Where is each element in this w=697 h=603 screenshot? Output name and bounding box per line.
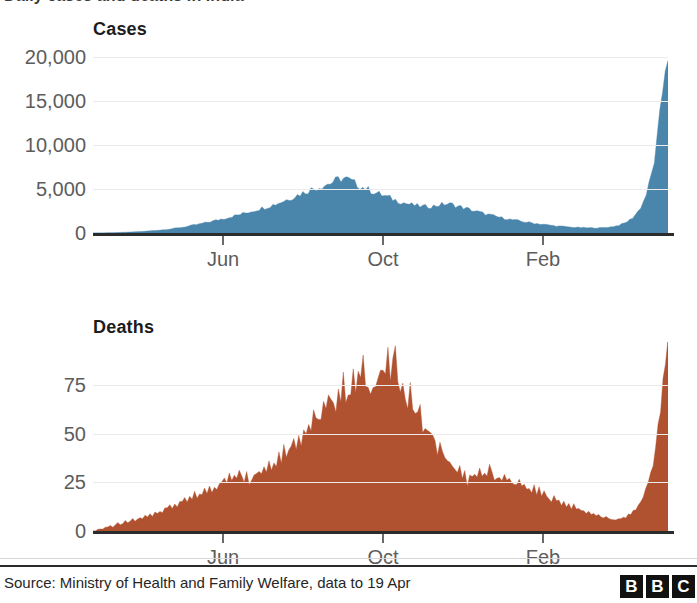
gridline — [93, 385, 668, 386]
x-tick-mark — [542, 534, 544, 543]
source-attribution: Source: Ministry of Health and Family We… — [4, 574, 411, 591]
gridline — [93, 482, 668, 483]
y-tick-label: 10,000 — [2, 134, 86, 157]
deaths-y-axis-labels: 0255075 — [0, 342, 86, 531]
x-tick-label: Oct — [367, 248, 398, 271]
y-tick-label: 25 — [2, 471, 86, 494]
headline-text: Daily cases and deaths in India — [0, 0, 697, 6]
x-tick-label: Jun — [207, 248, 239, 271]
x-tick-mark — [382, 534, 384, 543]
cases-y-axis-labels: 05,00010,00015,00020,000 — [0, 44, 86, 233]
chart-page: Daily cases and deaths in India Cases 05… — [0, 0, 697, 603]
x-tick-mark — [222, 236, 224, 245]
headline-clipped: Daily cases and deaths in India — [0, 0, 697, 6]
bbc-logo-letter-2: B — [646, 575, 669, 598]
x-tick-mark — [382, 236, 384, 245]
gridline — [93, 189, 668, 190]
gridline — [93, 434, 668, 435]
x-tick-mark — [222, 534, 224, 543]
y-tick-label: 50 — [2, 422, 86, 445]
deaths-chart-panel: 0255075 JunOctFeb — [0, 342, 697, 554]
gridline — [93, 145, 668, 146]
y-tick-label: 5,000 — [2, 178, 86, 201]
y-tick-label: 15,000 — [2, 90, 86, 113]
cases-area-series — [93, 44, 668, 233]
footer-divider — [0, 565, 697, 567]
bbc-logo: B B C — [620, 575, 695, 598]
cases-chart-panel: 05,00010,00015,00020,000 JunOctFeb — [0, 44, 697, 256]
x-tick-mark — [542, 236, 544, 245]
y-tick-label: 75 — [2, 373, 86, 396]
bbc-logo-letter-1: B — [620, 575, 643, 598]
gridline — [93, 57, 668, 58]
y-tick-label: 0 — [2, 222, 86, 245]
y-tick-label: 20,000 — [2, 46, 86, 69]
deaths-plot-area — [93, 342, 668, 531]
x-tick-label: Feb — [526, 248, 560, 271]
bbc-logo-letter-3: C — [672, 575, 695, 598]
deaths-chart-title: Deaths — [93, 317, 154, 338]
y-tick-label: 0 — [2, 520, 86, 543]
cases-plot-area — [93, 44, 668, 233]
deaths-area-series — [93, 342, 668, 531]
gridline — [93, 101, 668, 102]
footer-divider-soft — [0, 558, 697, 559]
cases-chart-title: Cases — [93, 19, 147, 40]
